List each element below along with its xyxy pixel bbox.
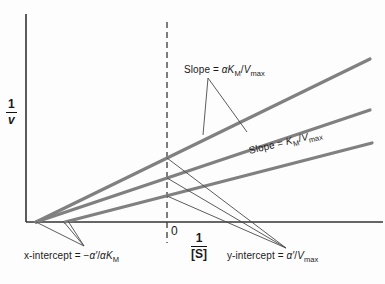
data-line-shallow <box>65 143 372 222</box>
x-axis-label: 1 [S] <box>191 232 207 262</box>
y-intercept-vmax-subscript: max <box>304 255 318 264</box>
x-intercept-prefix: x-intercept = <box>24 250 83 261</box>
x-axis-label-numerator: 1 <box>191 232 207 247</box>
lineweaver-burk-figure: 1 v 1 [S] 0 Slope = αKM/Vmax Slope = KM/… <box>0 0 385 284</box>
origin-label: 0 <box>171 224 178 238</box>
leader-yintercept-a <box>167 158 286 248</box>
leader-slope-alpha-right <box>208 78 247 132</box>
y-axis-label-denominator: v <box>6 113 17 127</box>
leader-xintercept-b <box>63 221 84 246</box>
slope-inhibited-prefix: Slope = <box>184 64 222 75</box>
y-intercept-vmax: V <box>297 250 304 261</box>
leader-slope-alpha-left <box>203 78 208 135</box>
y-intercept-label: y-intercept = α′/Vmax <box>227 250 318 261</box>
x-intercept-km: K <box>106 250 113 261</box>
slope-inhibited-vmax-subscript: max <box>250 69 264 78</box>
y-axis-label: 1 v <box>6 98 17 128</box>
y-axis-label-numerator: 1 <box>6 98 17 113</box>
y-intercept-prefix: y-intercept = <box>227 250 286 261</box>
x-intercept-label: x-intercept = −α′/αKM <box>24 250 119 261</box>
slope-inhibited-label: Slope = αKM/Vmax <box>184 64 265 75</box>
x-intercept-km-subscript: M <box>113 255 119 264</box>
x-axis-label-denominator: [S] <box>191 247 207 261</box>
leader-yintercept-b <box>167 178 286 248</box>
slope-inhibited-km-subscript: M <box>234 69 240 78</box>
